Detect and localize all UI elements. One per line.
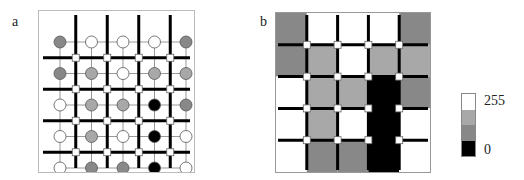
intersection-square bbox=[104, 149, 111, 156]
grid-cell bbox=[399, 108, 430, 140]
intersection-square bbox=[303, 41, 310, 48]
grid-cell bbox=[368, 45, 399, 77]
colorbar-segment-0 bbox=[462, 94, 475, 110]
intersection-square bbox=[303, 105, 310, 112]
intersection-square bbox=[135, 54, 142, 61]
intersection-square bbox=[334, 105, 341, 112]
grid-cell bbox=[399, 45, 430, 77]
intersection-square bbox=[334, 137, 341, 144]
grid-cell bbox=[307, 77, 338, 109]
grid-cell bbox=[307, 140, 338, 172]
node-circle bbox=[149, 68, 161, 80]
grid-cell bbox=[276, 13, 307, 45]
intersection-square bbox=[365, 137, 372, 144]
grid-cell bbox=[338, 45, 369, 77]
intersection-square bbox=[167, 117, 174, 124]
intersection-square bbox=[135, 117, 142, 124]
intersection-square bbox=[396, 41, 403, 48]
intersection-square bbox=[365, 105, 372, 112]
intersection-square bbox=[104, 117, 111, 124]
grid-cell bbox=[307, 108, 338, 140]
grid-cell bbox=[338, 13, 369, 45]
node-circle bbox=[54, 36, 66, 48]
intersection-square bbox=[135, 149, 142, 156]
grid-cell bbox=[307, 45, 338, 77]
grid-cell bbox=[338, 77, 369, 109]
panel-b-cell-grid bbox=[275, 12, 431, 173]
node-circle bbox=[86, 162, 98, 172]
grid-cell bbox=[399, 13, 430, 45]
grid-cell bbox=[276, 140, 307, 172]
node-circle bbox=[149, 36, 161, 48]
node-circle bbox=[54, 131, 66, 143]
node-circle bbox=[180, 99, 192, 111]
panel-a-circle-grid bbox=[38, 10, 195, 173]
node-circle bbox=[180, 68, 192, 80]
node-circle bbox=[54, 68, 66, 80]
grid-cell bbox=[338, 140, 369, 172]
node-circle bbox=[117, 99, 129, 111]
grid-cell bbox=[368, 108, 399, 140]
panel-b-label: b bbox=[260, 14, 267, 30]
node-circle bbox=[54, 162, 66, 172]
colorbar-min-label: 0 bbox=[484, 142, 491, 158]
intersection-square bbox=[303, 73, 310, 80]
intersection-square bbox=[72, 86, 79, 93]
node-circle bbox=[117, 131, 129, 143]
intersection-square bbox=[365, 41, 372, 48]
grid-cell bbox=[307, 13, 338, 45]
intersection-square bbox=[396, 105, 403, 112]
grid-cell bbox=[338, 108, 369, 140]
intersection-square bbox=[396, 137, 403, 144]
node-circle bbox=[86, 36, 98, 48]
node-circle bbox=[180, 162, 192, 172]
grid-cell bbox=[399, 140, 430, 172]
grid-cell bbox=[368, 13, 399, 45]
intersection-square bbox=[334, 73, 341, 80]
node-circle bbox=[86, 131, 98, 143]
node-circle bbox=[86, 68, 98, 80]
node-circle bbox=[117, 36, 129, 48]
intersection-square bbox=[167, 86, 174, 93]
intersection-square bbox=[135, 86, 142, 93]
grid-cell bbox=[276, 77, 307, 109]
node-circle bbox=[180, 131, 192, 143]
circle-grid-diagram bbox=[39, 11, 194, 172]
grid-cell bbox=[368, 140, 399, 172]
intersection-square bbox=[167, 54, 174, 61]
intersection-square bbox=[72, 117, 79, 124]
intersection-square bbox=[365, 73, 372, 80]
grid-cell bbox=[399, 77, 430, 109]
intersection-square bbox=[104, 86, 111, 93]
grayscale-colorbar bbox=[461, 93, 476, 157]
node-circle bbox=[149, 162, 161, 172]
grid-cell bbox=[276, 45, 307, 77]
cell-grid-diagram bbox=[276, 13, 430, 172]
colorbar-segment-3 bbox=[462, 141, 475, 157]
colorbar-segment-1 bbox=[462, 110, 475, 126]
grid-cell bbox=[276, 108, 307, 140]
node-circle bbox=[117, 68, 129, 80]
panel-a-label: a bbox=[12, 14, 18, 30]
node-circle bbox=[54, 99, 66, 111]
intersection-square bbox=[396, 73, 403, 80]
grid-cell bbox=[368, 77, 399, 109]
intersection-square bbox=[334, 41, 341, 48]
intersection-square bbox=[167, 149, 174, 156]
node-circle bbox=[117, 162, 129, 172]
node-circle bbox=[149, 131, 161, 143]
node-circle bbox=[86, 99, 98, 111]
intersection-square bbox=[303, 137, 310, 144]
colorbar-max-label: 255 bbox=[484, 93, 505, 109]
colorbar-segment-2 bbox=[462, 125, 475, 141]
intersection-square bbox=[104, 54, 111, 61]
intersection-square bbox=[72, 54, 79, 61]
node-circle bbox=[149, 99, 161, 111]
intersection-square bbox=[72, 149, 79, 156]
node-circle bbox=[180, 36, 192, 48]
